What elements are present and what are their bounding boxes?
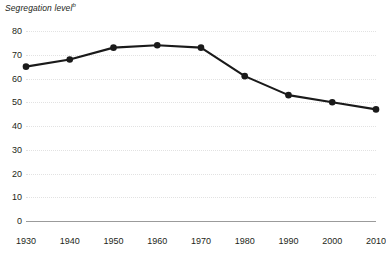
series-line-segregation-level — [26, 45, 376, 109]
data-point-marker — [66, 56, 73, 63]
data-point-marker — [110, 44, 117, 51]
data-point-marker — [329, 99, 336, 106]
data-point-marker — [373, 106, 380, 113]
data-point-marker — [198, 44, 205, 51]
data-point-marker — [241, 73, 248, 80]
data-point-marker — [154, 42, 161, 49]
data-point-marker — [285, 92, 292, 99]
data-point-marker — [23, 63, 30, 70]
